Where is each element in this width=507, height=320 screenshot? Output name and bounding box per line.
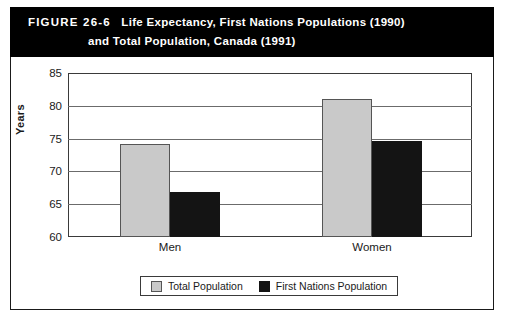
y-axis-tick-label: 70 — [36, 165, 62, 177]
x-axis-tick-label-men: Men — [159, 241, 181, 253]
legend-item-first-nations-population: First Nations Population — [259, 280, 387, 292]
bar-men-first-nations-population — [170, 192, 220, 237]
figure-title-line-1: FIGURE 26-6 Life Expectancy, First Natio… — [10, 13, 494, 32]
legend-label-total-population: Total Population — [168, 280, 243, 292]
y-axis-tick-label: 65 — [36, 198, 62, 210]
y-axis-title: Years — [14, 104, 26, 135]
y-axis-tick-label: 80 — [36, 100, 62, 112]
legend-label-first-nations-population: First Nations Population — [276, 280, 387, 292]
figure-number-label: FIGURE 26-6 — [28, 16, 111, 28]
bar-men-total-population — [120, 144, 170, 237]
legend-swatch-first-nations-population — [259, 281, 270, 292]
legend-item-total-population: Total Population — [151, 280, 243, 292]
gridline — [68, 139, 472, 140]
figure-title-text-1: Life Expectancy, First Nations Populatio… — [121, 16, 405, 28]
figure-title-band: FIGURE 26-6 Life Expectancy, First Natio… — [10, 7, 494, 57]
plot-area — [68, 73, 472, 237]
figure-title-line-2: and Total Population, Canada (1991) — [10, 32, 494, 51]
y-axis-tick-label: 85 — [36, 67, 62, 79]
x-axis-tick-label-women: Women — [352, 241, 391, 253]
chart-legend: Total Population First Nations Populatio… — [140, 276, 398, 296]
legend-swatch-total-population — [151, 281, 162, 292]
y-axis-tick-label: 60 — [36, 231, 62, 243]
bar-women-total-population — [322, 99, 372, 237]
bar-women-first-nations-population — [372, 141, 422, 237]
y-axis-tick-labels: 606570758085 — [36, 73, 62, 237]
figure-container: FIGURE 26-6 Life Expectancy, First Natio… — [0, 0, 507, 320]
gridline — [68, 106, 472, 107]
y-axis-tick-label: 75 — [36, 133, 62, 145]
